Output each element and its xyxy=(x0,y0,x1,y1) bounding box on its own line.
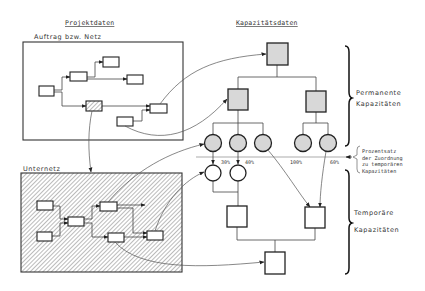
allocation-percent: 40% xyxy=(245,159,254,165)
permanent-brace xyxy=(345,46,352,146)
subnetwork-node xyxy=(37,232,52,241)
subnetwork-label: Unternetz xyxy=(23,165,60,173)
permanent-resource-circle xyxy=(295,135,312,152)
network-node xyxy=(70,72,87,81)
capacity-data-heading: Kapazitätsdaten xyxy=(236,19,298,27)
capacity-tree: 30% 40% 100% 60% xyxy=(196,43,350,274)
temporary-capacity-right xyxy=(305,207,325,228)
expand-subnetwork-arrow xyxy=(89,111,92,172)
order-network-graph xyxy=(39,57,167,126)
subnetwork-node xyxy=(108,233,124,242)
allocation-percent: 100% xyxy=(290,159,302,165)
temporary-label-line1: Temporäre xyxy=(353,209,394,217)
permanent-resource-circle xyxy=(255,135,272,152)
temporary-label-line2: Kapazitäten xyxy=(354,226,399,234)
temporary-capacity-bottom xyxy=(265,252,285,274)
network-node xyxy=(150,104,167,113)
permanent-resource-circle xyxy=(320,135,337,152)
order-network-label: Auftrag bzw. Netz xyxy=(34,33,102,41)
permanent-resource-circle xyxy=(230,135,247,152)
permanent-capacity-top xyxy=(267,43,288,65)
allocation-percent: 30% xyxy=(221,159,230,165)
project-data-heading: Projektdaten xyxy=(65,19,114,27)
network-node xyxy=(103,57,119,67)
permanent-label-line2: Kapazitäten xyxy=(356,100,401,108)
permanent-label-line1: Permanente xyxy=(356,89,401,97)
permanent-capacity-left xyxy=(228,89,248,110)
network-node xyxy=(39,86,54,96)
subnetwork-node xyxy=(147,231,163,240)
percent-note-line1: Prozentsatz xyxy=(362,148,396,154)
network-node xyxy=(127,75,143,84)
network-node xyxy=(117,117,133,126)
subnetwork-node xyxy=(68,217,84,226)
allocation-percent: 60% xyxy=(330,159,339,165)
percent-brace xyxy=(353,146,360,173)
permanent-capacity-right xyxy=(306,91,326,112)
permanent-resource-circle xyxy=(205,135,222,152)
temporary-brace xyxy=(345,170,352,274)
temporary-capacity-left xyxy=(227,206,247,227)
temporary-resource-circle xyxy=(230,165,246,181)
capacity-diagram: Projektdaten Kapazitätsdaten Auftrag bzw… xyxy=(0,0,425,291)
temporary-resource-circle xyxy=(205,165,221,181)
subnetwork-node-hatched xyxy=(86,101,102,111)
subnetwork-node xyxy=(100,202,117,211)
percent-note-line4: Kapazitäten xyxy=(362,168,396,175)
subnetwork-node xyxy=(37,201,53,210)
